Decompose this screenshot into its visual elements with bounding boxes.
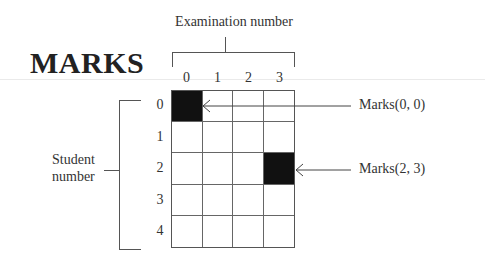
- arrow-icon: [203, 100, 351, 176]
- marks-array-diagram: MARKS Examination number 0 1 2 3 Student…: [0, 0, 485, 267]
- callout-arrows: [0, 0, 485, 267]
- callout-label-marks-2-3: Marks(2, 3): [359, 161, 425, 177]
- callout-label-marks-0-0: Marks(0, 0): [359, 97, 425, 113]
